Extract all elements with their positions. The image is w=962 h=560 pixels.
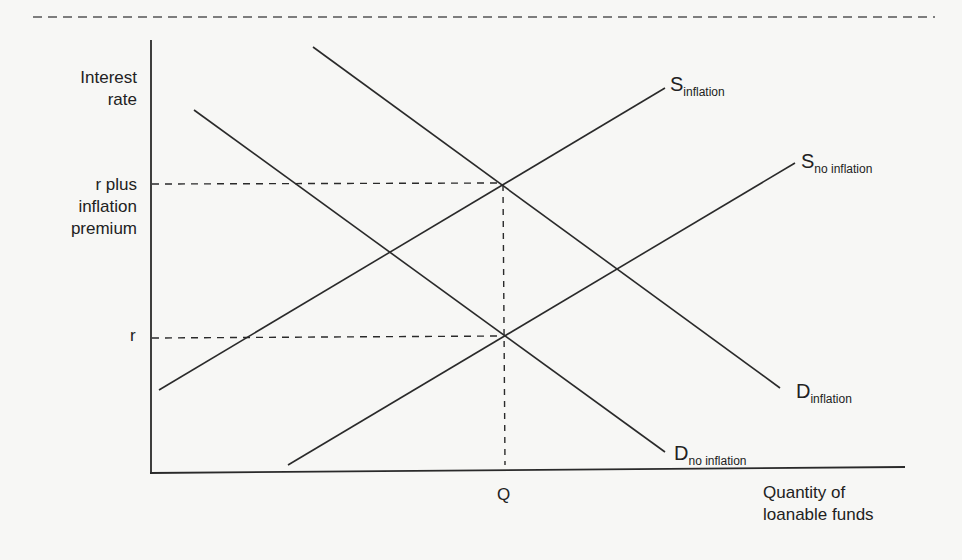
r-label: r xyxy=(130,325,136,347)
s-inflation-label: Sinflation xyxy=(670,73,725,98)
s-no-inflation-base: S xyxy=(801,150,814,172)
x-axis-title-line1: Quantity of xyxy=(763,482,874,504)
d-inflation-sub: inflation xyxy=(810,392,851,406)
r-guide xyxy=(152,336,503,338)
r-plus-label: r plus inflation premium xyxy=(30,174,137,240)
y-axis-title-line1: Interest xyxy=(40,67,137,89)
s-no-inflation-sub: no inflation xyxy=(814,162,872,176)
q-guide xyxy=(503,185,505,465)
s-no-inflation-label: Sno inflation xyxy=(801,150,872,175)
loanable-funds-diagram xyxy=(0,0,962,560)
r-plus-guide xyxy=(152,183,502,184)
d-no-inflation-sub: no inflation xyxy=(688,454,746,468)
q-label: Q xyxy=(497,484,510,506)
s-no-inflation-curve xyxy=(288,163,795,465)
d-no-inflation-curve xyxy=(194,110,665,452)
d-inflation-base: D xyxy=(796,380,810,402)
r-plus-line1: r plus xyxy=(30,174,137,196)
s-inflation-base: S xyxy=(670,73,683,95)
y-axis-title-line2: rate xyxy=(40,89,137,111)
d-inflation-label: Dinflation xyxy=(796,380,852,405)
r-plus-line3: premium xyxy=(30,218,137,240)
y-axis-title: Interest rate xyxy=(40,67,137,111)
x-axis-title: Quantity of loanable funds xyxy=(763,482,874,526)
d-no-inflation-label: Dno inflation xyxy=(674,442,747,467)
s-inflation-curve xyxy=(159,88,665,390)
r-plus-line2: inflation xyxy=(30,196,137,218)
x-axis-title-line2: loanable funds xyxy=(763,504,874,526)
s-inflation-sub: inflation xyxy=(683,85,724,99)
x-axis xyxy=(150,467,905,473)
d-no-inflation-base: D xyxy=(674,442,688,464)
